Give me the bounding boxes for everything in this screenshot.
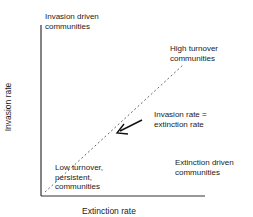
x-axis-title: Extinction rate <box>82 206 136 216</box>
diagonal-label: Invasion rate = extinction rate <box>154 110 207 129</box>
label-line: Extinction driven <box>175 158 234 168</box>
region-high-turnover: High turnover communities <box>170 44 218 63</box>
region-extinction-driven: Extinction driven communities <box>175 158 234 177</box>
label-line: Invasion rate = <box>154 110 207 120</box>
label-line: persistent, <box>55 173 103 183</box>
arrow-icon <box>117 120 142 134</box>
label-line: communities <box>170 54 218 64</box>
region-low-turnover: Low turnover, persistent, communities <box>55 163 103 192</box>
label-line: communities <box>175 168 234 178</box>
y-axis-title: Invasion rate <box>3 83 13 132</box>
label-line: extinction rate <box>154 120 207 130</box>
label-line: communities <box>45 22 99 32</box>
label-line: Low turnover, <box>55 163 103 173</box>
label-line: communities <box>55 182 103 192</box>
diagram-canvas <box>0 0 253 217</box>
label-line: High turnover <box>170 44 218 54</box>
label-line: Invasion driven <box>45 12 99 22</box>
region-invasion-driven: Invasion driven communities <box>45 12 99 31</box>
